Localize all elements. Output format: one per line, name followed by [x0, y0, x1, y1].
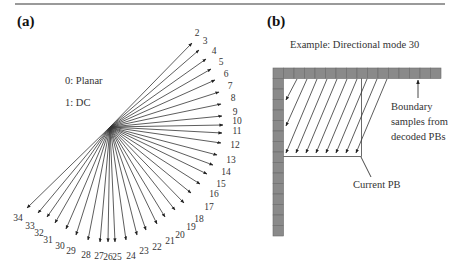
- mode-arrow-30: [66, 127, 110, 229]
- mode-arrow-13: [110, 127, 217, 155]
- boundary-cell-top: [273, 68, 284, 79]
- mode-label-19: 19: [186, 223, 196, 233]
- boundary-cell-top: [336, 68, 347, 79]
- boundary-cell-left: [273, 121, 284, 132]
- mode-label-5: 5: [219, 58, 224, 68]
- mode-label-33: 33: [25, 222, 35, 232]
- boundary-cell-left: [273, 163, 284, 174]
- boundary-cell-left: [273, 194, 284, 205]
- mode-label-30: 30: [55, 242, 65, 252]
- mode-label-13: 13: [226, 156, 236, 166]
- boundary-cell-top: [284, 68, 295, 79]
- boundary-cell-left: [273, 110, 284, 121]
- diagram-canvas: [0, 0, 455, 272]
- mode-arrow-2: [110, 43, 192, 127]
- mode-label-24: 24: [126, 252, 136, 262]
- boundary-cell-top: [347, 68, 358, 79]
- boundary-cell-top: [357, 68, 368, 79]
- boundary-cell-top: [315, 68, 326, 79]
- boundary-cell-top: [410, 68, 421, 79]
- boundary-cell-left: [273, 100, 284, 111]
- mode-arrow-32: [47, 127, 110, 217]
- mode-label-8: 8: [231, 94, 236, 104]
- mode-label-32: 32: [34, 229, 44, 239]
- boundary-cell-top: [420, 68, 431, 79]
- mode-arrow-31: [55, 127, 110, 223]
- prediction-arrow: [336, 79, 367, 153]
- mode-arrow-3: [110, 50, 199, 127]
- boundary-cell-left: [273, 226, 284, 237]
- prediction-arrow: [306, 79, 337, 153]
- mode-arrow-11: [110, 127, 222, 133]
- mode-label-27: 27: [94, 252, 104, 262]
- boundary-cell-left: [273, 215, 284, 226]
- boundary-cell-left: [273, 152, 284, 163]
- mode-label-7: 7: [228, 82, 233, 92]
- boundary-cell-left: [273, 79, 284, 90]
- boundary-cell-top: [399, 68, 410, 79]
- prediction-arrow: [286, 79, 307, 126]
- mode-arrow-6: [110, 80, 215, 127]
- prediction-arrows: [286, 79, 418, 177]
- mode-arrow-22: [110, 127, 146, 230]
- angular-mode-fan: [27, 43, 223, 242]
- mode-label-28: 28: [81, 251, 91, 261]
- mode-label-31: 31: [43, 236, 53, 246]
- mode-label-29: 29: [66, 247, 76, 257]
- mode-arrow-18: [110, 127, 184, 203]
- mode-label-12: 12: [230, 141, 240, 151]
- mode-label-3: 3: [203, 37, 208, 47]
- mode-label-6: 6: [224, 70, 229, 80]
- prediction-arrow: [356, 79, 387, 153]
- boundary-samples: [273, 68, 441, 236]
- prediction-arrow: [286, 79, 297, 100]
- mode-label-17: 17: [204, 203, 214, 213]
- mode-label-11: 11: [232, 127, 241, 137]
- prediction-arrow: [316, 79, 347, 153]
- mode-label-34: 34: [13, 214, 23, 224]
- boundary-cell-top: [378, 68, 389, 79]
- mode-arrow-28: [88, 127, 110, 240]
- boundary-cell-top: [305, 68, 316, 79]
- mode-label-4: 4: [212, 47, 217, 57]
- mode-label-22: 22: [152, 243, 162, 253]
- current-pb-pointer: [361, 157, 371, 177]
- prediction-arrow: [296, 79, 327, 153]
- boundary-cell-top: [294, 68, 305, 79]
- boundary-cell-top: [326, 68, 337, 79]
- boundary-cell-top: [431, 68, 442, 79]
- mode-label-16: 16: [209, 190, 219, 200]
- boundary-cell-left: [273, 173, 284, 184]
- mode-label-21: 21: [165, 237, 175, 247]
- mode-label-23: 23: [139, 247, 149, 257]
- mode-label-20: 20: [175, 231, 185, 241]
- mode-label-26: 26: [103, 253, 113, 263]
- boundary-cell-top: [368, 68, 379, 79]
- boundary-cell-left: [273, 184, 284, 195]
- mode-label-2: 2: [195, 29, 200, 39]
- prediction-arrow: [326, 79, 357, 153]
- boundary-cell-left: [273, 89, 284, 100]
- mode-label-14: 14: [221, 168, 231, 178]
- boundary-cell-left: [273, 205, 284, 216]
- boundary-cell-left: [273, 131, 284, 142]
- boundary-cell-top: [389, 68, 400, 79]
- mode-label-25: 25: [112, 253, 122, 263]
- mode-arrow-33: [38, 127, 110, 213]
- boundary-cell-left: [273, 142, 284, 153]
